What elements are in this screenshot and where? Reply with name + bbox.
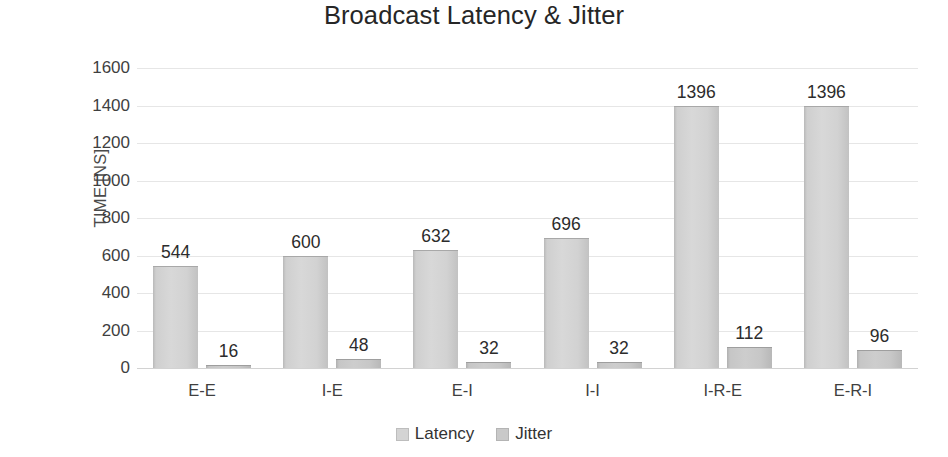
- legend-item-latency[interactable]: Latency: [396, 424, 475, 444]
- bar-value-label: 48: [316, 335, 401, 355]
- bar-value-label: 32: [446, 338, 531, 358]
- chart-legend: LatencyJitter: [0, 424, 948, 444]
- y-axis-tick-label: 1600: [60, 58, 130, 78]
- x-axis-tick-label-i-r-e: I-R-E: [658, 380, 788, 400]
- bar-value-label: 600: [263, 232, 348, 252]
- bar-value-label: 544: [133, 242, 218, 262]
- bar-chart: Broadcast Latency & Jitter TIME [NS] 160…: [0, 0, 948, 457]
- gridline: [137, 68, 918, 69]
- x-axis-tick-label-e-i: E-I: [397, 380, 527, 400]
- legend-label: Latency: [415, 424, 475, 444]
- gridline: [137, 293, 918, 294]
- bar-value-label: 632: [393, 226, 478, 246]
- y-axis-tick-label: 1200: [60, 133, 130, 153]
- bar-value-label: 112: [707, 323, 792, 343]
- x-axis-tick-label-e-r-i: E-R-I: [788, 380, 918, 400]
- y-axis-tick-labels: 16001400120010008006004002000: [52, 68, 130, 368]
- legend-swatch-icon-jitter: [496, 428, 509, 441]
- y-axis-tick-label: 0: [60, 358, 130, 378]
- gridline: [137, 106, 918, 107]
- bar-jitter-i-r-e: [727, 347, 772, 368]
- y-axis-tick-label: 1000: [60, 171, 130, 191]
- gridline: [137, 331, 918, 332]
- legend-swatch-icon-latency: [396, 428, 409, 441]
- y-axis-tick-label: 800: [60, 208, 130, 228]
- bar-jitter-i-e: [336, 359, 381, 368]
- gridline: [137, 181, 918, 182]
- x-axis-tick-label-i-i: I-I: [528, 380, 658, 400]
- y-axis-tick-label: 200: [60, 321, 130, 341]
- bar-jitter-i-i: [597, 362, 642, 368]
- bar-value-label: 32: [577, 338, 662, 358]
- y-axis-tick-label: 1400: [60, 96, 130, 116]
- bar-value-label: 16: [186, 341, 271, 361]
- legend-label: Jitter: [515, 424, 552, 444]
- bar-jitter-e-e: [206, 365, 251, 368]
- legend-item-jitter[interactable]: Jitter: [496, 424, 552, 444]
- bar-value-label: 96: [837, 326, 922, 346]
- axis-baseline: [137, 368, 918, 369]
- bar-jitter-e-r-i: [857, 350, 902, 368]
- bar-value-label: 1396: [654, 82, 739, 102]
- y-axis-tick-label: 400: [60, 283, 130, 303]
- bar-value-label: 696: [524, 214, 609, 234]
- chart-title: Broadcast Latency & Jitter: [0, 0, 948, 30]
- plot-area: 544600632696139613961648323211296: [137, 68, 918, 368]
- y-axis-tick-label: 600: [60, 246, 130, 266]
- x-axis-tick-label-e-e: E-E: [137, 380, 267, 400]
- bar-value-label: 1396: [784, 82, 869, 102]
- bar-jitter-e-i: [466, 362, 511, 368]
- gridline: [137, 256, 918, 257]
- x-axis-tick-label-i-e: I-E: [267, 380, 397, 400]
- gridline: [137, 143, 918, 144]
